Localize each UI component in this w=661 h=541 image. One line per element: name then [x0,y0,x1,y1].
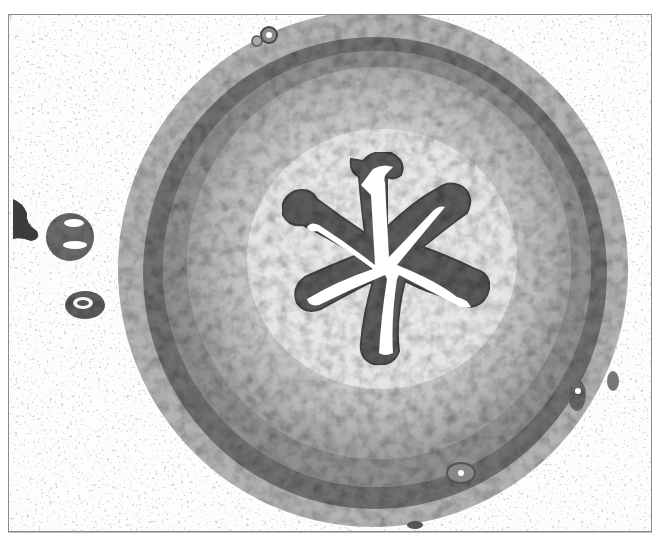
micrograph-frame [8,14,652,532]
tissue-cross-section [9,15,651,531]
blood-vessel-left-lower [65,291,105,319]
blood-vessel-left-upper [46,213,94,261]
